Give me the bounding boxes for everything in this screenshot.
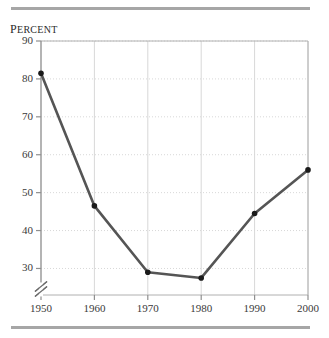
y-axis-tick-label: 40 [11, 224, 33, 236]
horizontal-gridlines [41, 41, 308, 268]
y-axis-tick-label: 30 [11, 261, 33, 273]
x-axis-tick-label: 1980 [181, 302, 221, 314]
y-axis-tick-label: 70 [11, 110, 33, 122]
y-axis-tick-label: 90 [11, 34, 33, 46]
plot-frame [41, 41, 308, 295]
x-axis-tick-label: 1960 [74, 302, 114, 314]
chart-figure: PERCENT 30405060708090 19501960197019801… [0, 0, 329, 338]
x-axis-tick-label: 1990 [235, 302, 275, 314]
data-series-line [41, 73, 308, 278]
x-axis-tick-label: 1950 [21, 302, 61, 314]
axis-ticks [36, 41, 308, 300]
x-axis-tick-label: 2000 [288, 302, 328, 314]
vertical-gridlines [41, 41, 308, 295]
y-axis-tick-label: 60 [11, 148, 33, 160]
data-series-markers [38, 70, 311, 280]
y-axis-tick-label: 50 [11, 186, 33, 198]
x-axis-tick-label: 1970 [128, 302, 168, 314]
y-axis-break-icon [35, 281, 47, 296]
bottom-divider-rule [11, 326, 310, 329]
plot-area [0, 0, 329, 338]
y-axis-tick-label: 80 [11, 72, 33, 84]
